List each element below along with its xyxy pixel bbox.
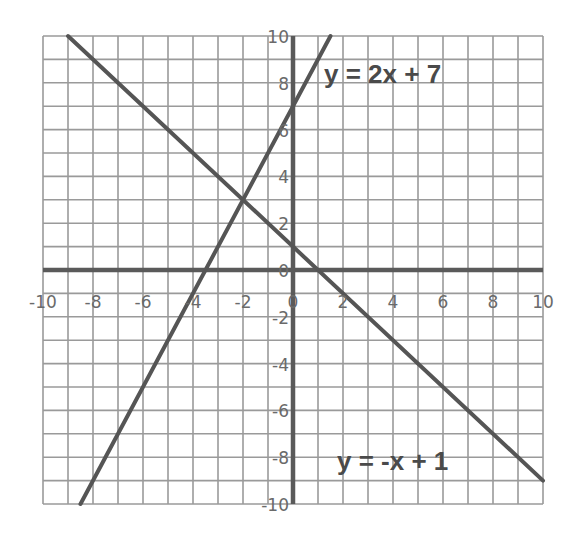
- plot-line-2: [68, 36, 543, 481]
- x-tick-label: -6: [135, 292, 152, 312]
- y-tick-label: 8: [278, 74, 289, 94]
- x-tick-label: -8: [85, 292, 102, 312]
- y-tick-label: -10: [261, 495, 289, 515]
- y-tick-label: -4: [272, 355, 289, 375]
- x-tick-label: 6: [438, 292, 449, 312]
- x-tick-label: -2: [235, 292, 252, 312]
- equation-label-line1: y = 2x + 7: [324, 59, 441, 89]
- coordinate-plane: -10-8-6-4-202468101086420-2-4-6-8-10 y =…: [0, 0, 581, 542]
- y-tick-label: -2: [272, 308, 289, 328]
- x-tick-label: 8: [488, 292, 499, 312]
- y-tick-label: -8: [272, 448, 289, 468]
- x-tick-label: -4: [185, 292, 202, 312]
- y-tick-label: 0: [278, 261, 289, 281]
- x-tick-label: 0: [288, 292, 299, 312]
- x-tick-label: 10: [532, 292, 554, 312]
- y-tick-label: -6: [272, 401, 289, 421]
- y-tick-label: 6: [278, 121, 289, 141]
- y-tick-label: 2: [278, 214, 289, 234]
- equation-label-line2: y = -x + 1: [337, 446, 448, 476]
- x-tick-label: -10: [29, 292, 57, 312]
- x-tick-label: 2: [338, 292, 349, 312]
- y-tick-label: 10: [267, 27, 289, 47]
- x-tick-label: 4: [388, 292, 399, 312]
- y-tick-label: 4: [278, 167, 289, 187]
